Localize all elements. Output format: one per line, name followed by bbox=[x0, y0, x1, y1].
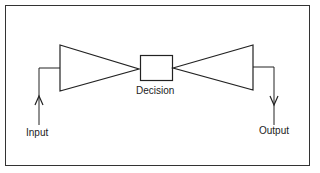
output-line bbox=[253, 67, 274, 125]
output-label: Output bbox=[259, 125, 289, 137]
output-funnel-triangle bbox=[173, 45, 253, 90]
input-funnel-triangle bbox=[60, 45, 139, 91]
input-line bbox=[39, 68, 60, 125]
decision-label: Decision bbox=[136, 85, 174, 97]
input-label: Input bbox=[26, 127, 48, 139]
decision-box bbox=[141, 56, 173, 81]
